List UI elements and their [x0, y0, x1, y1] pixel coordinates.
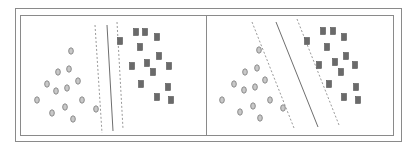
circle-point — [56, 69, 61, 75]
circle-point — [258, 115, 263, 121]
square-point — [317, 62, 322, 69]
circle-point — [65, 85, 70, 91]
square-point — [356, 97, 361, 104]
circle-point — [242, 87, 247, 93]
square-point — [169, 97, 174, 104]
circle-point — [257, 47, 262, 53]
circle-point — [63, 104, 68, 110]
circle-point — [50, 110, 55, 116]
square-point — [333, 59, 338, 66]
circle-point — [281, 105, 286, 111]
square-point — [339, 69, 344, 76]
square-point — [134, 29, 139, 36]
square-point — [342, 94, 347, 101]
circle-point — [251, 103, 256, 109]
circle-point — [54, 88, 59, 94]
circle-point — [268, 97, 273, 103]
circle-point — [243, 69, 248, 75]
hyperplane-line — [107, 25, 113, 131]
square-point — [139, 81, 144, 88]
square-point — [321, 28, 326, 35]
circle-point — [238, 109, 243, 115]
square-point — [167, 63, 172, 70]
square-point — [155, 94, 160, 101]
circle-point — [80, 97, 85, 103]
circle-point — [69, 48, 74, 54]
circle-point — [71, 116, 76, 122]
square-point — [166, 84, 171, 91]
circle-point — [76, 78, 81, 84]
square-point — [325, 44, 330, 51]
circle-point — [220, 97, 225, 103]
square-point — [118, 38, 123, 45]
circle-point — [232, 81, 237, 87]
svm-diagram — [0, 0, 412, 146]
margin-line-right — [297, 19, 339, 125]
square-point — [138, 44, 143, 51]
square-point — [130, 63, 135, 70]
margin-line-left — [95, 25, 102, 133]
panel-wide-margin — [220, 19, 361, 128]
circle-point — [45, 81, 50, 87]
square-point — [327, 81, 332, 88]
square-point — [157, 53, 162, 60]
margin-line-left — [252, 22, 294, 128]
square-point — [145, 60, 150, 67]
circle-point — [35, 97, 40, 103]
circle-point — [255, 65, 260, 71]
square-point — [354, 84, 359, 91]
circle-point — [94, 106, 99, 112]
circle-point — [263, 77, 268, 83]
square-point — [331, 28, 336, 35]
square-point — [353, 62, 358, 69]
svm-figure — [0, 0, 412, 146]
square-point — [342, 34, 347, 41]
panel-narrow-margin — [35, 22, 174, 133]
square-point — [305, 38, 310, 45]
square-point — [151, 69, 156, 76]
circle-point — [253, 84, 258, 90]
circle-point — [67, 66, 72, 72]
square-point — [155, 34, 160, 41]
square-point — [344, 53, 349, 60]
square-point — [143, 29, 148, 36]
